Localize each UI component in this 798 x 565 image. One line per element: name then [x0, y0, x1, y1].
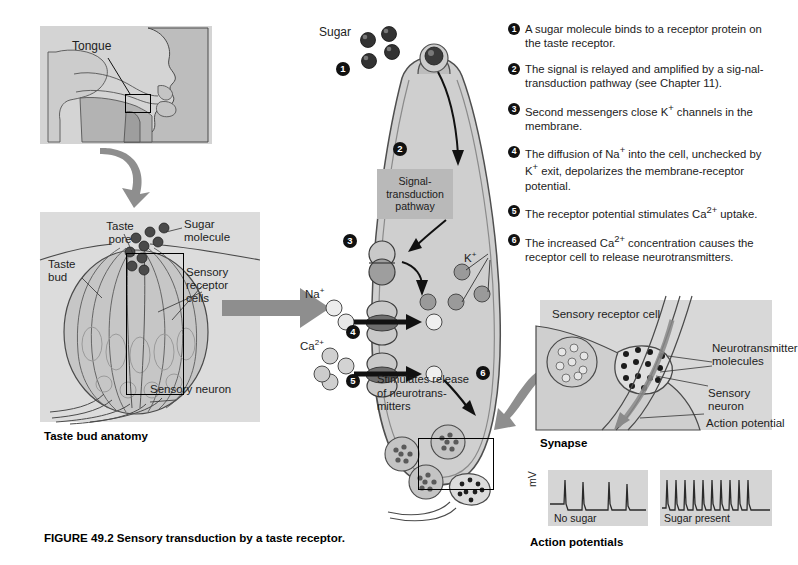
caption-action-potentials: Action potentials	[530, 536, 623, 548]
caption-synapse: Synapse	[540, 437, 587, 449]
label-taste-bud: Taste bud	[48, 258, 88, 284]
signal-transduction-text: Signal-transduction pathway	[377, 175, 453, 213]
step-item-4: 4 The diffusion of Na+ into the cell, un…	[508, 145, 776, 193]
step-item-2: 2 The signal is relayed and amplified by…	[508, 62, 776, 90]
label-k-plus: K+	[464, 248, 476, 266]
step-text-3: Second messengers close K+ channels in t…	[525, 106, 753, 132]
step-item-3: 3 Second messengers close K+ channels in…	[508, 102, 776, 133]
step-number-4: 4	[508, 146, 520, 158]
label-taste-pore: Taste pore	[98, 220, 142, 246]
step-text-2: The signal is relayed and amplified by a…	[525, 63, 764, 89]
step-number-1: 1	[508, 23, 520, 35]
marker-5: 5	[346, 374, 360, 388]
taste-bud-highlight-box	[126, 253, 184, 395]
arrow-head-to-tastebud	[96, 146, 166, 210]
label-stimulates-release: Stimulates release of neurotrans-mitters	[377, 373, 479, 414]
step-number-3: 3	[508, 103, 520, 115]
step-item-6: 6 The increased Ca2+ concentration cause…	[508, 233, 776, 264]
label-sensory-receptor-cell: Sensory receptor cell	[552, 308, 660, 321]
marker-4: 4	[346, 325, 360, 339]
head-panel	[40, 26, 212, 144]
marker-1: 1	[336, 62, 350, 76]
step-text-4: The diffusion of Na+ into the cell, unch…	[525, 148, 761, 191]
trace-label-no-sugar: No sugar	[554, 512, 597, 524]
step-number-5: 5	[508, 205, 520, 217]
label-sugar: Sugar	[319, 26, 351, 39]
cell-synapse-highlight-box	[418, 438, 494, 490]
step-list: 1 A sugar molecule binds to a receptor p…	[508, 22, 776, 275]
marker-6: 6	[476, 366, 490, 380]
label-tongue: Tongue	[72, 40, 111, 53]
trace-label-sugar-present: Sugar present	[664, 512, 730, 524]
step-text-1: A sugar molecule binds to a receptor pro…	[525, 23, 762, 49]
label-sugar-molecule: Sugar molecule	[184, 218, 240, 244]
label-neurotransmitter-molecules: Neurotransmitter molecules	[712, 342, 774, 368]
marker-2: 2	[393, 142, 407, 156]
label-action-potential: Action potential	[706, 417, 785, 430]
step-item-5: 5 The receptor potential stimulates Ca2+…	[508, 204, 776, 221]
step-text-5: The receptor potential stimulates Ca2+ u…	[525, 208, 757, 220]
marker-3: 3	[343, 234, 357, 248]
head-highlight-box	[125, 94, 151, 113]
ion-na-outside	[322, 296, 346, 320]
action-potentials-panel	[530, 470, 776, 540]
axis-label-mv: mV	[526, 471, 538, 487]
sugar-molecules-free	[340, 20, 430, 80]
step-number-6: 6	[508, 234, 520, 246]
figure-number: FIGURE 49.2	[44, 531, 114, 544]
caption-taste-bud-anatomy: Taste bud anatomy	[44, 430, 148, 442]
signal-transduction-box: Signal-transduction pathway	[377, 169, 453, 219]
step-item-1: 1 A sugar molecule binds to a receptor p…	[508, 22, 776, 50]
figure-caption-text: Sensory transduction by a taste receptor…	[117, 531, 345, 544]
step-number-2: 2	[508, 63, 520, 75]
step-text-6: The increased Ca2+ concentration causes …	[525, 237, 754, 263]
figure-caption: FIGURE 49.2 Sensory transduction by a ta…	[44, 531, 345, 544]
label-synapse-sensory-neuron: Sensory neuron	[708, 387, 764, 413]
